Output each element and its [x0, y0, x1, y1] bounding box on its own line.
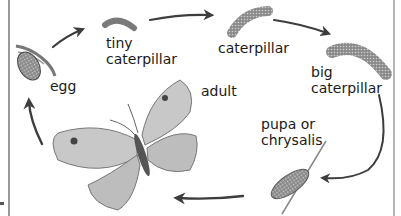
label-tiny-caterpillar: tiny caterpillar [106, 35, 177, 67]
label-pupa: pupa or chrysalis [261, 116, 323, 148]
arrow-caterpillar-to-big [274, 20, 327, 33]
arrow-pupa-to-adult [178, 196, 243, 199]
label-egg: egg [50, 78, 76, 94]
cycle-arrows [29, 15, 384, 199]
pupa-illustration [267, 141, 326, 214]
life-cycle-diagram: egg tiny caterpillar caterpillar big cat… [0, 0, 401, 216]
label-big-caterpillar: big caterpillar [311, 64, 382, 96]
caterpillar-illustration [232, 11, 268, 33]
tiny-caterpillar-illustration [105, 21, 134, 28]
label-adult: adult [201, 83, 237, 99]
arrow-adult-to-egg [29, 102, 42, 144]
label-caterpillar: caterpillar [218, 40, 289, 56]
illustrations [0, 0, 401, 216]
egg-illustration [13, 46, 55, 84]
arrow-egg-to-tiny [53, 30, 81, 47]
arrow-tiny-to-caterpillar [150, 15, 210, 20]
arrow-big-to-pupa [324, 95, 384, 178]
butterfly-illustration [53, 80, 197, 210]
